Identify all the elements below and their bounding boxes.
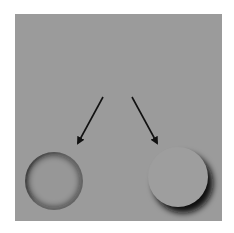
concave-hole: [25, 152, 83, 210]
illustration-panel: [15, 14, 222, 221]
shading-diagram: [15, 14, 222, 221]
